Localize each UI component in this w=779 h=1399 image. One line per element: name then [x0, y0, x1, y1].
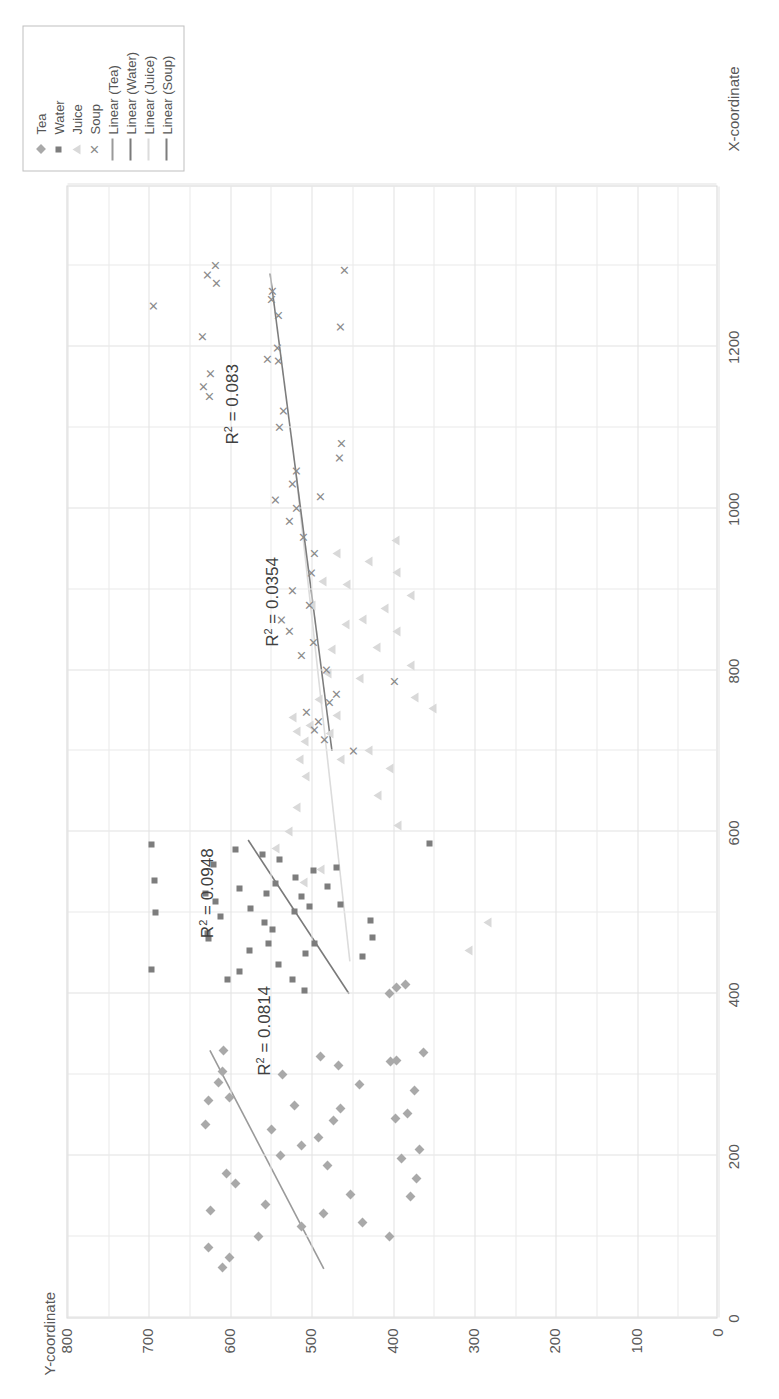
- legend-item-tea[interactable]: Tea: [32, 34, 48, 162]
- data-point-water: [247, 905, 253, 911]
- data-point-juice: [380, 603, 388, 613]
- y-tick-label: 800: [58, 1328, 75, 1374]
- gridline-horizontal: [148, 186, 149, 1317]
- data-point-water: [276, 856, 282, 862]
- y-axis-title: Y-coordinate: [40, 1291, 57, 1375]
- data-point-tea: [405, 1191, 415, 1201]
- data-point-soup: [290, 502, 302, 514]
- legend-item-linear-juice[interactable]: Linear (Juice): [140, 34, 156, 162]
- data-point-water: [261, 919, 267, 925]
- data-point-tea: [315, 1051, 325, 1061]
- gridline-horizontal: [230, 186, 231, 1317]
- data-point-tea: [205, 1205, 215, 1215]
- y-tick-label: 500: [302, 1328, 319, 1374]
- data-point-juice: [391, 535, 399, 545]
- data-point-juice: [364, 556, 372, 566]
- x-axis-title: X-coordinate: [724, 66, 741, 151]
- y-tick-label: 400: [383, 1328, 400, 1374]
- data-point-juice: [292, 802, 300, 812]
- gridline-vertical: [67, 183, 716, 184]
- data-point-soup: [303, 599, 315, 611]
- x-tick-label: 1200: [724, 330, 741, 363]
- data-point-soup: [290, 465, 302, 477]
- r2-label-juice: R2 = 0.0354: [261, 557, 283, 647]
- r2-label-tea: R2 = 0.0814: [253, 985, 275, 1075]
- data-point-soup: [308, 547, 320, 559]
- data-point-water: [324, 883, 330, 889]
- data-point-juice: [393, 820, 401, 830]
- data-point-soup: [335, 437, 347, 449]
- data-point-soup: [283, 625, 295, 637]
- gridline-horizontal: [474, 186, 475, 1317]
- data-point-tea: [217, 1262, 227, 1272]
- data-point-juice: [428, 703, 436, 713]
- legend-key: [51, 136, 65, 162]
- data-point-tea: [354, 1079, 364, 1089]
- data-point-juice: [292, 726, 300, 736]
- legend-item-soup[interactable]: Soup: [86, 34, 102, 162]
- data-point-water: [306, 903, 312, 909]
- chart-screenshot: Y-coordinate X-coordinate 02004006008001…: [0, 0, 779, 1399]
- data-point-soup: [269, 494, 281, 506]
- data-point-tea: [224, 1092, 234, 1102]
- legend-item-linear-water[interactable]: Linear (Water): [122, 34, 138, 162]
- data-point-soup: [334, 320, 346, 332]
- data-point-soup: [347, 745, 359, 757]
- data-point-soup: [197, 380, 209, 392]
- legend-item-linear-soup[interactable]: Linear (Soup): [158, 34, 174, 162]
- chart-legend[interactable]: TeaWaterJuiceSoupLinear (Tea)Linear (Wat…: [22, 25, 184, 171]
- data-point-water: [224, 976, 230, 982]
- data-point-water: [275, 961, 281, 967]
- data-point-soup: [271, 341, 283, 353]
- data-point-water: [369, 934, 375, 940]
- data-point-juice: [300, 736, 308, 746]
- data-point-juice: [299, 877, 307, 887]
- legend-key: [123, 136, 137, 162]
- data-point-juice: [332, 710, 340, 720]
- data-point-tea: [402, 1108, 412, 1118]
- gridline-horizontal: [555, 186, 556, 1317]
- data-point-juice: [341, 619, 349, 629]
- data-point-soup: [283, 515, 295, 527]
- y-tick-label: 0: [709, 1328, 726, 1374]
- legend-marker-water: [55, 146, 61, 152]
- data-point-juice: [316, 864, 324, 874]
- data-point-tea: [322, 1160, 332, 1170]
- data-point-water: [292, 874, 298, 880]
- data-point-juice: [406, 660, 414, 670]
- legend-key: [141, 136, 155, 162]
- legend-line-juice: [147, 138, 149, 160]
- data-point-soup: [305, 566, 317, 578]
- legend-item-linear-tea[interactable]: Linear (Tea): [104, 34, 120, 162]
- y-tick-label: 200: [546, 1328, 563, 1374]
- legend-item-water[interactable]: Water: [50, 34, 66, 162]
- data-point-water: [301, 987, 307, 993]
- data-point-soup: [320, 664, 332, 676]
- gridline-vertical: [67, 830, 716, 831]
- data-point-soup: [333, 452, 345, 464]
- data-point-juice: [295, 754, 303, 764]
- gridline-vertical: [67, 750, 716, 751]
- x-tick-label: 200: [724, 1144, 741, 1169]
- data-point-soup: [388, 675, 400, 687]
- data-point-water: [151, 877, 157, 883]
- data-point-water: [289, 976, 295, 982]
- legend-line-soup: [165, 138, 167, 160]
- data-point-water: [337, 901, 343, 907]
- data-point-water: [367, 917, 373, 923]
- data-point-water: [272, 880, 278, 886]
- x-tick-label: 600: [724, 820, 741, 845]
- data-point-soup: [312, 715, 324, 727]
- x-tick-label: 800: [724, 658, 741, 683]
- data-point-water: [232, 846, 238, 852]
- data-point-water: [259, 851, 265, 857]
- data-point-tea: [203, 1095, 213, 1105]
- data-point-tea: [328, 1115, 338, 1125]
- legend-key: [69, 136, 83, 162]
- data-point-juice: [392, 567, 400, 577]
- gridline-vertical: [67, 1154, 716, 1155]
- gridline-horizontal: [515, 186, 516, 1317]
- gridline-horizontal: [108, 186, 109, 1317]
- data-point-soup: [295, 649, 307, 661]
- legend-item-juice[interactable]: Juice: [68, 34, 84, 162]
